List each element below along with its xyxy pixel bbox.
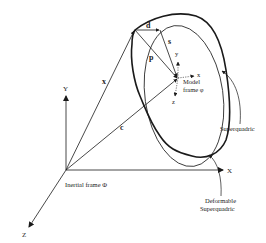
model-x-label: x <box>197 71 201 78</box>
model-y-label: y <box>175 50 179 57</box>
inertial-y-label: Y <box>63 85 68 93</box>
inertial-x-label: X <box>227 167 232 175</box>
vector-c-label: c <box>120 123 124 132</box>
deformable-superquadric-diagram: Y X Z Inertial frame Φ d s p x c y x z M… <box>0 0 266 243</box>
superquadric-curve <box>135 20 232 171</box>
vectors <box>66 30 177 170</box>
model-frame-label-line1: Model <box>183 78 200 85</box>
inertial-frame-label: Inertial frame Φ <box>65 181 107 188</box>
deformable-superquadric-curve <box>131 14 229 157</box>
vector-x <box>66 31 134 170</box>
deformable-callout-arrow <box>209 155 221 196</box>
model-frame-label-line2: frame φ <box>183 86 204 93</box>
vector-x-label: x <box>102 77 106 86</box>
deformable-superquadric-label-line1: Deformable <box>205 197 236 204</box>
vector-s-label: s <box>168 37 171 46</box>
deformable-superquadric-label-line2: Superquadric <box>200 205 235 212</box>
superquadric-callout-arrow <box>222 71 240 124</box>
model-z-label: z <box>172 98 175 105</box>
vector-p-label: p <box>149 53 154 62</box>
inertial-frame-axes <box>29 96 223 227</box>
inertial-z-label: Z <box>22 231 26 239</box>
superquadric-label: Superquadric <box>220 125 255 132</box>
vector-d-label: d <box>146 21 151 30</box>
inertial-z-axis <box>29 170 66 227</box>
